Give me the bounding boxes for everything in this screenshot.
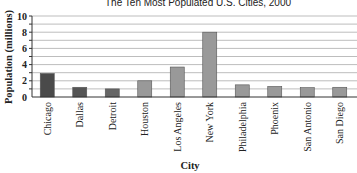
y-axis-label: Population (millions) (3, 9, 15, 104)
bar-chart: The Ten Most Populated U.S. Cities, 2000… (0, 0, 357, 173)
x-tick-label: San Antonio (302, 102, 313, 152)
x-tick-label: Dallas (74, 102, 85, 128)
y-tick-label: 10 (17, 11, 27, 22)
x-tick-label: Chicago (42, 102, 53, 135)
x-tick-label: Phoenix (269, 102, 280, 135)
y-tick-label: 2 (22, 75, 27, 86)
bar-chicago (40, 74, 54, 97)
y-tick-label: 0 (22, 92, 27, 103)
x-tick-labels: ChicagoDallasDetroitHoustonLos AngelesNe… (42, 101, 346, 152)
x-tick-label: Detroit (107, 102, 118, 131)
y-tick-labels: 0246810 (17, 11, 27, 103)
y-tick-label: 4 (22, 59, 27, 70)
bar-dallas (73, 87, 87, 97)
x-tick-label: Houston (139, 102, 150, 136)
x-tick-label: Los Angeles (172, 102, 183, 152)
bar-san-diego (333, 87, 347, 97)
x-tick-label: New York (204, 102, 215, 143)
y-tick-label: 6 (22, 43, 27, 54)
x-tick-label: Philadelphia (237, 101, 248, 152)
y-tick-label: 8 (22, 27, 27, 38)
bar-philadelphia (235, 85, 249, 97)
gridlines (29, 16, 357, 89)
bar-detroit (105, 89, 119, 97)
bar-phoenix (268, 86, 282, 97)
x-axis-label: City (180, 160, 200, 171)
bar-los-angeles (170, 67, 184, 97)
bar-san-antonio (300, 88, 314, 97)
chart-title: The Ten Most Populated U.S. Cities, 2000 (105, 0, 291, 8)
bar-houston (138, 81, 152, 97)
bar-new-york (203, 32, 217, 97)
x-tick-label: San Diego (334, 102, 345, 144)
